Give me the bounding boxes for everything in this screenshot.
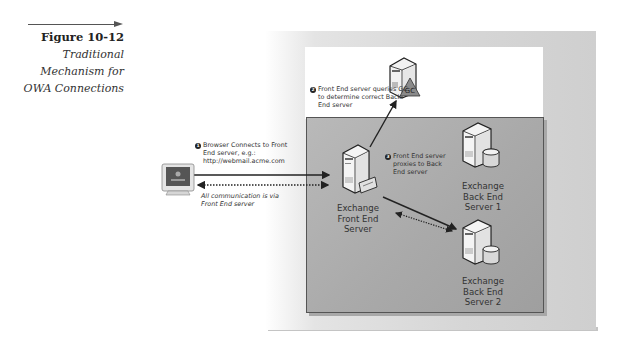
label-line: Server 1 [448,202,518,213]
back-end-server-1-icon [461,121,501,169]
all-communication-note: All communication is via Front End serve… [201,192,279,208]
label-line: Exchange [448,276,518,287]
step-number-badge: 2 [310,87,316,93]
label-line: Server 2 [448,297,518,308]
label-line: Exchange [448,181,518,192]
proxy-arrow-solid [383,197,456,229]
note-line: Front End server queries GC [318,85,408,93]
note-line: End server [385,168,446,176]
note-line: Browser Connects to Front [203,141,287,149]
note-line: End server, e.g.: [195,149,287,157]
label-line: Exchange [323,203,393,214]
step-number-badge: 3 [385,154,391,160]
back-end-server-2-icon [461,218,501,266]
note-line: End server [310,101,408,109]
front-end-server-label: Exchange Front End Server [323,203,393,235]
note-line: Front End server [201,200,279,208]
label-line: Back End [448,287,518,298]
back-end-server-2-label: Exchange Back End Server 2 [448,276,518,308]
step-1-note: 1Browser Connects to Front End server, e… [195,141,287,166]
step-3-note: 3Front End server proxies to Back End se… [385,152,446,177]
note-line: http://webmail.acme.com [195,157,287,165]
label-line: Server [323,224,393,235]
back-end-server-1-label: Exchange Back End Server 1 [448,181,518,213]
note-line: Front End server [393,152,446,160]
note-line: to determine correct Back [310,93,408,101]
label-line: Back End [448,192,518,203]
step-number-badge: 1 [195,143,201,149]
label-line: Front End [323,214,393,225]
connector-layer [0,0,624,349]
note-line: All communication is via [201,192,279,200]
step-2-note: 2Front End server queries GC to determin… [310,85,408,110]
note-line: proxies to Back [385,160,446,168]
client-monitor-icon [161,163,197,198]
front-end-server-icon [341,143,379,195]
